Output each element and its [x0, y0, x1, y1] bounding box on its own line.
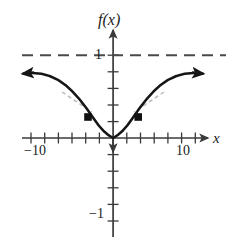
- curve-left-arrow-icon: [23, 73, 35, 74]
- y-axis-label: f(x): [98, 12, 120, 28]
- x-axis-label: x: [213, 131, 220, 146]
- x-tick-label-10: 10: [176, 144, 190, 158]
- graph-canvas: [0, 0, 244, 250]
- y-tick-label-neg1: −1: [89, 207, 104, 221]
- curve-right-arrow-icon: [192, 73, 204, 74]
- x-tick-label-neg10: −10: [24, 144, 46, 158]
- y-axis: [108, 30, 119, 237]
- data-point-marker-left: [84, 113, 92, 121]
- y-tick-label-1: 1: [95, 48, 102, 62]
- data-point-marker-right: [134, 113, 142, 121]
- function-graph-figure: f(x) x 1 −1 −10 10: [0, 0, 244, 250]
